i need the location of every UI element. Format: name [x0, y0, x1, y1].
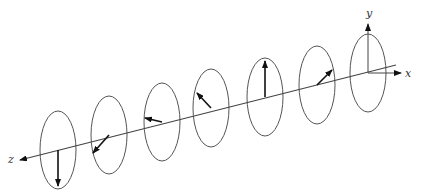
diagram-canvas: y x z — [0, 0, 421, 196]
z-axis-line — [20, 65, 396, 160]
electric-field-vector-arrow — [145, 118, 162, 122]
y-axis-label: y — [365, 7, 373, 20]
electric-field-vector-arrow — [93, 135, 109, 153]
electric-field-vector-arrow — [197, 93, 211, 108]
x-axis-label: x — [405, 67, 412, 80]
circular-polarization-diagram: y x z — [0, 0, 421, 196]
z-axis-label: z — [7, 153, 14, 166]
